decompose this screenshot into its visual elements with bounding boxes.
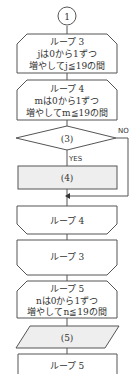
decision-label: (3) [61, 134, 74, 144]
loop3-end-label: ループ 3 [50, 252, 85, 262]
connector-label: 1 [64, 12, 70, 22]
flowchart-canvas: 1 ループ 3 jは0から1ずつ 増やしてj≦19の間 ループ 4 mは0から1… [0, 0, 136, 374]
io-5-label: (5) [61, 333, 74, 343]
yes-label: YES [68, 155, 83, 163]
loop3-start-line3: 増やしてj≦19の間 [29, 60, 105, 71]
loop5-end-label: ループ 5 [50, 361, 85, 371]
process-4-label: (4) [61, 173, 74, 183]
loop4-start-line2: mは0から1ずつ [35, 96, 100, 106]
loop4-start-line1: ループ 4 [50, 84, 85, 94]
loop3-start-line1: ループ 3 [50, 37, 85, 47]
loop4-start-line3: 増やしてm≦19の間 [26, 107, 108, 118]
no-label: NO [118, 127, 129, 135]
loop3-start-line2: jは0から1ずつ [36, 49, 96, 59]
loop5-start-line1: ループ 5 [50, 284, 85, 294]
loop4-end-label: ループ 4 [50, 216, 85, 226]
loop5-start-line3: 増やしてn≦19の間 [27, 306, 106, 317]
loop5-start-line2: nは0から1ずつ [36, 296, 98, 306]
